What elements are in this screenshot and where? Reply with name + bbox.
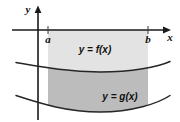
upper-bound-label-b: b (145, 33, 151, 45)
curve-label-f: y = f(x) (78, 44, 112, 55)
y-axis-arrow-icon (35, 6, 42, 14)
y-axis-label: y (24, 3, 31, 15)
x-axis-label: x (166, 31, 173, 43)
area-between-curves-figure: y x a b y = f(x) y = g(x) (0, 0, 180, 122)
figure-container: y x a b y = f(x) y = g(x) (0, 0, 180, 122)
curve-label-g: y = g(x) (101, 91, 138, 102)
lower-bound-label-a: a (45, 33, 51, 45)
